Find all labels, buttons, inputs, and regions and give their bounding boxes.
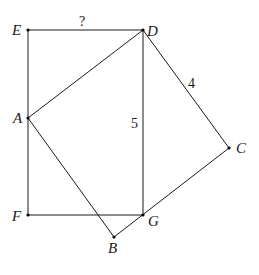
- segment-ba: [28, 118, 114, 237]
- label-g: G: [148, 213, 159, 229]
- point-b: [112, 235, 115, 238]
- point-g: [141, 213, 144, 216]
- segment-ad: [28, 30, 143, 118]
- point-c: [227, 146, 230, 149]
- label-c: C: [236, 140, 247, 156]
- point-e: [26, 28, 29, 31]
- segment-cb: [114, 148, 229, 237]
- point-f: [26, 213, 29, 216]
- measure-ed: ?: [79, 14, 85, 29]
- point-a: [26, 116, 29, 119]
- measure-dc: 4: [188, 76, 195, 91]
- point-d: [141, 28, 144, 31]
- measure-dg: 5: [131, 116, 138, 131]
- label-d: D: [146, 23, 158, 39]
- geometry-figure: E D A F G B C ? 4 5: [0, 0, 259, 275]
- segment-dc: [143, 30, 229, 148]
- label-e: E: [11, 22, 21, 38]
- label-b: B: [108, 240, 117, 256]
- label-f: F: [11, 208, 22, 224]
- label-a: A: [12, 110, 23, 126]
